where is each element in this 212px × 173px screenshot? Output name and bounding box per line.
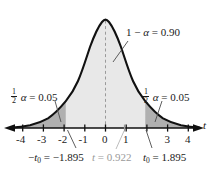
equals-sign: = <box>153 151 159 163</box>
confidence-value: 0.90 <box>161 26 180 38</box>
equals-sign: = <box>29 91 35 103</box>
x-tick-label--4: -4 <box>16 134 25 145</box>
test-statistic-label: t = 0.922 <box>92 152 132 163</box>
t-symbol: t <box>92 151 95 163</box>
one-half-fraction: 1 2 <box>11 88 17 106</box>
x-tick-label--3: -3 <box>37 134 46 145</box>
alpha-symbol: α <box>21 91 27 103</box>
positive-critical-value-label: t0 = 1.895 <box>143 152 186 164</box>
right-tail-area-label: 1 2 α = 0.05 <box>143 88 190 106</box>
x-tick-label-3: 3 <box>165 134 171 145</box>
x-tick-label-4: 4 <box>185 134 191 145</box>
fraction-denominator: 2 <box>11 97 17 105</box>
equals-sign: = <box>152 26 158 38</box>
equals-sign: = <box>98 151 104 163</box>
t-distribution-chart: 1 − α = 0.90 1 2 α = 0.05 1 2 α = 0.05 -… <box>0 0 212 173</box>
x-tick-label--1: -1 <box>79 134 88 145</box>
confidence-lead: 1 <box>126 26 132 38</box>
fraction-denominator: 2 <box>143 97 149 105</box>
test-statistic-value: 0.922 <box>107 151 132 163</box>
x-tick-label-1: 1 <box>123 134 129 145</box>
x-axis-label: t <box>203 120 206 131</box>
x-tick-label--2: -2 <box>58 134 67 145</box>
x-tick-label-0: 0 <box>102 134 108 145</box>
t-subscript: 0 <box>37 156 41 165</box>
minus-sign: − <box>134 26 140 38</box>
negative-critical-value: −1.895 <box>53 151 84 163</box>
alpha-symbol: α <box>143 26 149 38</box>
leader-pos-critical <box>146 130 152 148</box>
negative-critical-value-label: −t0 = −1.895 <box>28 152 84 164</box>
confidence-level-label: 1 − α = 0.90 <box>126 27 180 38</box>
equals-sign: = <box>44 151 50 163</box>
t-subscript: 0 <box>146 156 150 165</box>
equals-sign: = <box>161 91 167 103</box>
one-half-fraction: 1 2 <box>143 88 149 106</box>
left-tail-value: 0.05 <box>38 91 57 103</box>
leader-neg-critical <box>68 130 77 148</box>
chart-canvas <box>0 0 212 173</box>
left-tail-area-label: 1 2 α = 0.05 <box>11 88 58 106</box>
alpha-symbol: α <box>153 91 159 103</box>
right-tail-value: 0.05 <box>170 91 189 103</box>
positive-critical-value: 1.895 <box>162 151 187 163</box>
